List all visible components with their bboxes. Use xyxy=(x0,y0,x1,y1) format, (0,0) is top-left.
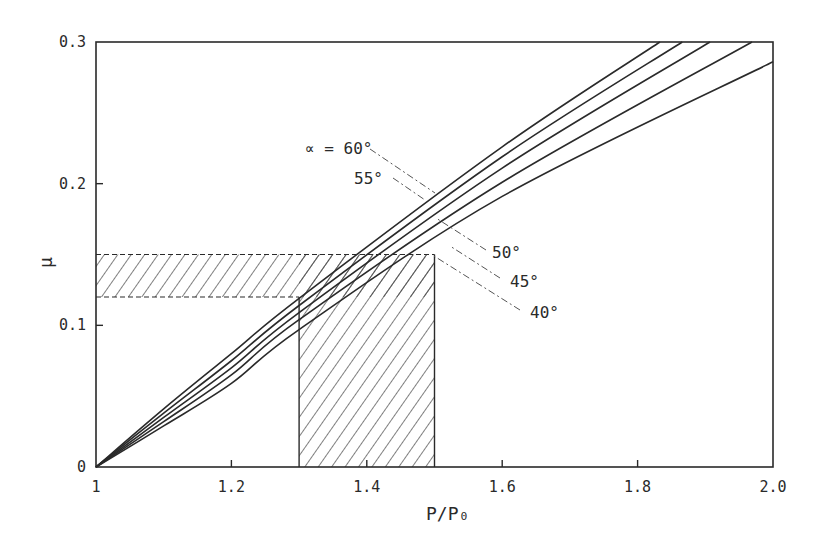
curve-label: 55° xyxy=(354,169,383,188)
label-leader-line xyxy=(434,256,520,310)
y-axis-title: μ xyxy=(35,257,56,268)
x-tick-label: 1.6 xyxy=(489,478,516,496)
y-tick-label: 0.2 xyxy=(59,175,86,193)
y-tick-label: 0.1 xyxy=(59,316,86,334)
y-tick-label: 0 xyxy=(77,458,86,476)
label-leader-line xyxy=(393,178,425,200)
x-tick-label: 1.8 xyxy=(624,478,651,496)
label-leader-line xyxy=(436,218,486,250)
y-tick-label: 0.3 xyxy=(59,33,86,51)
curve-label: 40° xyxy=(530,303,559,322)
curve-label: 45° xyxy=(510,272,539,291)
x-axis-title: P/P₀ xyxy=(426,503,469,524)
x-tick-label: 1 xyxy=(91,478,100,496)
x-tick-label: 1.4 xyxy=(353,478,380,496)
x-tick-label: 1.2 xyxy=(218,478,245,496)
x-tick-label: 2.0 xyxy=(759,478,786,496)
hatched-regions xyxy=(96,255,435,468)
curve-label: 50° xyxy=(492,243,521,262)
chart-canvas: 11.21.41.61.82.000.10.20.3 ∝ = 60°55°50°… xyxy=(0,0,816,559)
curve-label: ∝ = 60° xyxy=(305,139,372,158)
hatched-band-vertical xyxy=(299,255,434,468)
